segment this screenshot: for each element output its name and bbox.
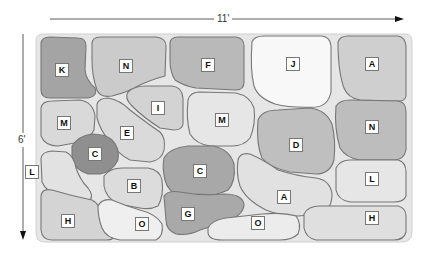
stone-label-j: J (286, 57, 300, 71)
stone-label-m: M (57, 116, 71, 130)
width-dimension-label: 11' (214, 14, 232, 24)
stone-label-b: B (127, 179, 141, 193)
stone-label-o: O (135, 217, 149, 231)
stone-label-m: M (215, 113, 229, 127)
stone-label-f: F (201, 58, 215, 72)
stone-label-l: L (365, 172, 379, 186)
stone-H-right (304, 206, 406, 240)
stone-label-a: A (365, 57, 379, 71)
stone-label-n: N (119, 59, 133, 73)
stone-label-a: A (277, 190, 291, 204)
stone-label-l: L (25, 165, 39, 179)
stone-label-i: I (151, 101, 165, 115)
stone-label-h: H (365, 211, 379, 225)
stone-label-o: O (251, 216, 265, 230)
stone-label-c: C (88, 147, 102, 161)
stone-label-n: N (365, 120, 379, 134)
stone-label-c: C (193, 164, 207, 178)
stone-label-k: K (55, 63, 69, 77)
stone-label-h: H (61, 214, 75, 228)
stone-label-e: E (120, 126, 134, 140)
stone-J (251, 36, 331, 107)
stone-label-g: G (181, 207, 195, 221)
stone-label-d: D (289, 138, 303, 152)
height-dimension-label: 6' (18, 133, 25, 147)
